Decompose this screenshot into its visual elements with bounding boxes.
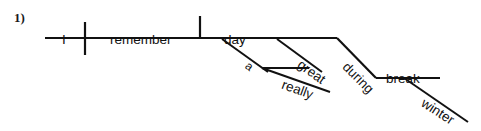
diagram-word-object-of-preposition: break	[386, 72, 420, 86]
sentence-diagram-canvas: 1) Irememberdayagreatreallyduringbreakwi…	[0, 0, 481, 131]
diagram-word-verb: remember	[110, 33, 172, 47]
diagram-line-art	[0, 0, 481, 131]
diagram-word-direct-object: day	[224, 33, 246, 47]
diagram-word-subject: I	[62, 33, 66, 47]
